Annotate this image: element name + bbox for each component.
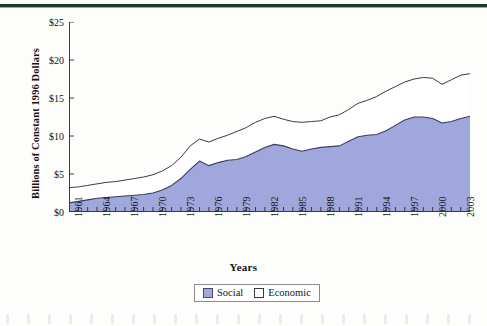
x-tick-label: 1997 [409, 196, 420, 217]
x-tick-label: 1985 [297, 196, 308, 217]
legend-item-social[interactable]: Social [203, 287, 243, 298]
x-tick-label: 1961 [73, 196, 84, 217]
x-tick-label: 1970 [157, 196, 168, 217]
x-tick-label: 2000 [437, 196, 448, 217]
legend-swatch-social-icon [203, 288, 213, 298]
legend-label-economic: Economic [268, 287, 311, 298]
x-tick-label: 1967 [129, 196, 140, 217]
x-axis-title: Years [0, 261, 487, 273]
x-tick-label: 1976 [213, 196, 224, 217]
x-tick-label: 1964 [101, 196, 112, 217]
x-axis-tick-labels: 1961196419671970197319761979198219851988… [0, 0, 487, 326]
x-tick-label: 1994 [381, 196, 392, 217]
x-tick-label: 2003 [465, 196, 476, 217]
x-tick-label: 1979 [241, 196, 252, 217]
legend-swatch-economic-icon [254, 288, 264, 298]
chart-legend: Social Economic [194, 284, 320, 302]
page-bottom-artifact [0, 314, 487, 324]
chart-figure: Billions of Constant 1996 Dollars $0 $5 … [0, 0, 487, 326]
x-tick-label: 1973 [185, 196, 196, 217]
legend-label-social: Social [217, 287, 243, 298]
x-tick-label: 1982 [269, 196, 280, 217]
x-tick-label: 1991 [353, 196, 364, 217]
x-tick-label: 1988 [325, 196, 336, 217]
legend-item-economic[interactable]: Economic [254, 287, 311, 298]
